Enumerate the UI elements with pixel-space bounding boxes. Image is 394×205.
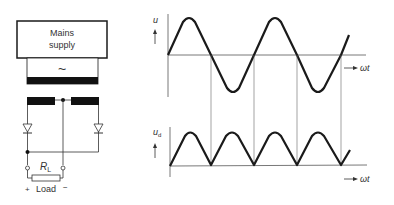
ac-symbol-icon: ~	[58, 61, 66, 77]
secondary-winding-right	[71, 97, 99, 105]
resistor-label: RL	[40, 161, 51, 173]
lower-x-arrow-icon	[344, 177, 358, 181]
mains-supply-label-1: Mains	[50, 28, 75, 38]
primary-winding	[27, 77, 98, 84]
output-waveform-plot: ud ωt	[153, 127, 370, 184]
lower-x-axis	[170, 165, 367, 166]
rectified-curve	[170, 133, 350, 167]
terminal-plus	[26, 166, 30, 170]
input-waveform-plot: u ωt	[153, 14, 370, 97]
load-plus-sign: +	[25, 185, 30, 194]
lower-y-label: ud	[153, 127, 161, 138]
upper-x-label: ωt	[360, 63, 370, 73]
secondary-winding-left	[27, 97, 55, 105]
mains-supply-label-2: supply	[49, 40, 76, 50]
projection-lines	[211, 55, 341, 165]
diode-left-icon	[23, 124, 32, 133]
load-minus-sign: −	[63, 183, 68, 192]
upper-x-arrow-icon	[344, 66, 358, 70]
load-resistor	[32, 175, 60, 181]
junction-dot	[26, 150, 30, 154]
upper-y-label: u	[153, 15, 158, 25]
terminal-minus	[61, 166, 65, 170]
load-label: Load	[36, 184, 56, 194]
lower-x-label: ωt	[360, 174, 370, 184]
rectifier-diagram: Mains supply ~	[0, 0, 394, 205]
diode-right-icon	[94, 124, 103, 133]
circuit-schematic: Mains supply ~	[17, 21, 107, 194]
lower-y-arrow-icon	[153, 143, 157, 158]
upper-y-arrow-icon	[153, 29, 157, 44]
